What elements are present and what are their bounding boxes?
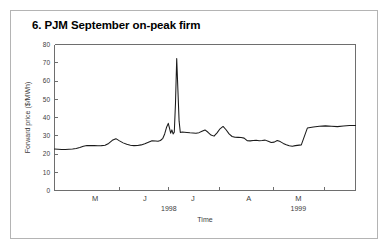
y-tick-label-0: 0 [46,187,50,194]
x-tick-label-0-M: M [92,194,98,203]
chart-plot-area: 80706050403020100MJJAM19981999TimeForwar… [0,0,389,250]
y-tick-label-50: 50 [43,96,51,103]
x-tick-label-2-J: J [191,194,195,203]
x-tick-label-1-J: J [143,194,147,203]
y-tick-label-70: 70 [43,59,51,66]
x-year-label-1998: 1998 [161,205,177,212]
x-year-label-1999: 1999 [291,205,307,212]
x-tick-label-4-M: M [295,194,301,203]
y-tick-label-10: 10 [43,169,51,176]
x-axis-title: Time [197,216,212,223]
line-chart-svg: 80706050403020100MJJAM19981999TimeForwar… [0,0,389,250]
y-tick-label-60: 60 [43,77,51,84]
y-tick-label-40: 40 [43,114,51,121]
data-series-line-0 [55,59,356,150]
x-tick-label-3-A: A [246,194,251,203]
y-tick-label-20: 20 [43,150,51,157]
y-axis-title: Forward price ($/MWh) [24,82,32,154]
y-tick-label-80: 80 [43,41,51,48]
y-tick-label-30: 30 [43,132,51,139]
